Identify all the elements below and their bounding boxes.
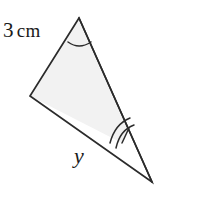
side-label-3cm-value: 3 (3, 18, 14, 42)
geometry-figure-canvas: 3cm y (0, 0, 213, 216)
side-label-3cm: 3cm (3, 20, 41, 41)
shaded-region (30, 18, 129, 143)
side-label-3cm-unit: cm (17, 20, 41, 41)
side-label-y: y (74, 145, 84, 167)
